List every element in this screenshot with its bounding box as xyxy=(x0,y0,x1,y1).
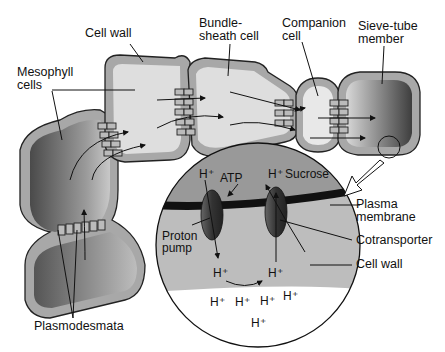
label-h-sucrose-h: H⁺ xyxy=(268,167,283,181)
label-bundle-sheath-2: sheath cell xyxy=(199,29,259,43)
phloem-loading-diagram: Cell wall Bundle- sheath cell Companion … xyxy=(0,0,445,352)
label-cell-wall-right: Cell wall xyxy=(356,257,403,271)
label-h-5: H⁺ xyxy=(260,294,275,308)
label-bundle-sheath-1: Bundle- xyxy=(199,16,242,30)
label-h-top: H⁺ xyxy=(199,167,214,181)
label-h-1: H⁺ xyxy=(213,266,228,280)
bundle-sheath-cell xyxy=(188,58,298,156)
label-cotransporter: Cotransporter xyxy=(356,233,432,247)
label-atp: ATP xyxy=(220,171,242,185)
label-sieve-2: member xyxy=(358,32,404,46)
label-mesophyll-2: cells xyxy=(17,78,42,92)
label-plasma-1: Plasma xyxy=(356,197,398,211)
label-sucrose: Sucrose xyxy=(285,167,329,181)
label-proton-2: pump xyxy=(162,241,192,255)
label-plasmodesmata: Plasmodesmata xyxy=(34,319,124,333)
label-companion-2: cell xyxy=(282,29,301,43)
label-h-6: H⁺ xyxy=(283,289,298,303)
label-h-4: H⁺ xyxy=(235,295,250,309)
label-mesophyll-1: Mesophyll xyxy=(17,65,73,79)
proton-pump-icon xyxy=(201,190,223,240)
label-h-7: H⁺ xyxy=(251,316,266,330)
label-h-3: H⁺ xyxy=(210,295,225,309)
label-h-2: H⁺ xyxy=(268,266,283,280)
label-plasma-2: membrane xyxy=(356,210,416,224)
label-companion-1: Companion xyxy=(282,16,346,30)
label-cell-wall-top: Cell wall xyxy=(85,26,132,40)
label-sieve-1: Sieve-tube xyxy=(358,19,418,33)
